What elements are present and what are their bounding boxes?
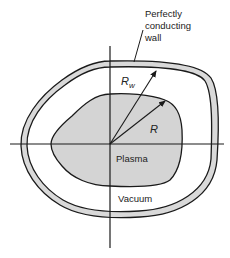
wall-label-line-1: Perfectly [145, 8, 182, 19]
wall-label-line-3: wall [144, 32, 161, 43]
plasma-radius-label: R [150, 123, 158, 135]
vacuum-label: Vacuum [118, 193, 152, 204]
wall-label-leader-line [134, 30, 143, 62]
plasma-wall-diagram: Perfectly conducting wall Rw R Plasma Va… [0, 0, 230, 258]
plasma-label: Plasma [116, 153, 148, 164]
wall-radius-symbol: R [121, 75, 129, 87]
wall-label-line-2: conducting [145, 20, 191, 31]
